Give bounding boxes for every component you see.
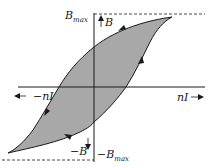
hysteresis-diagram: Bmax B −B −Bmax nI −nI <box>0 0 215 168</box>
ni-label: nI <box>177 91 189 104</box>
neg-b-max-label: −Bmax <box>97 148 129 163</box>
b-max-label: Bmax <box>64 9 88 24</box>
b-label: B <box>104 16 113 29</box>
neg-ni-label: −nI <box>33 90 54 103</box>
neg-b-label: −B <box>70 145 87 158</box>
hysteresis-loop <box>8 17 172 153</box>
